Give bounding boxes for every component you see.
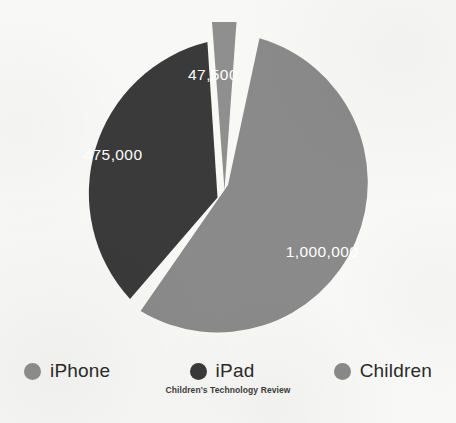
legend-label-iphone: iPhone xyxy=(50,360,110,382)
slice-label-iphone: 47,500 xyxy=(188,66,238,83)
legend-swatch-ipad xyxy=(190,363,207,380)
slice-label-ipad: 475,000 xyxy=(84,146,143,163)
slice-label-children: 1,000,000 xyxy=(286,243,359,260)
legend-swatch-children xyxy=(334,363,351,380)
chart-caption: Children's Technology Review xyxy=(0,385,456,395)
pie-chart: 47,500 475,000 1,000,000 xyxy=(0,0,456,345)
legend-item-iphone[interactable]: iPhone xyxy=(24,360,110,382)
pie-chart-svg: 47,500 475,000 1,000,000 xyxy=(0,0,456,345)
legend-item-ipad[interactable]: iPad xyxy=(190,360,255,382)
legend-item-children[interactable]: Children xyxy=(334,360,432,382)
legend-swatch-iphone xyxy=(24,363,41,380)
legend-label-ipad: iPad xyxy=(216,360,255,382)
legend-label-children: Children xyxy=(360,360,432,382)
